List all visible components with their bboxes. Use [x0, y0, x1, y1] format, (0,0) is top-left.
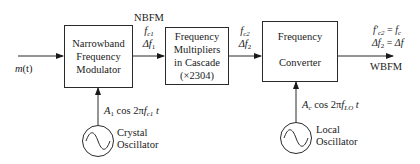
freq-sub: LO: [344, 104, 353, 112]
cos-term: cos 2π: [117, 105, 144, 116]
time-var: t: [356, 99, 359, 110]
eq-lhs-sub: c2: [378, 29, 385, 37]
block-line: in Cascade: [174, 56, 220, 69]
output-label: WBFM: [370, 61, 402, 73]
freq-sub: c1: [147, 30, 154, 38]
eq-rhs: Δf: [395, 37, 404, 48]
nbfm-title: NBFM: [131, 12, 167, 24]
block-line: (×2304): [180, 69, 214, 82]
time-var: t: [156, 105, 159, 116]
block-line: Multipliers: [174, 43, 221, 56]
osc-name-line: Oscillator: [117, 139, 158, 151]
block-line: Narrowband: [72, 37, 124, 50]
osc-name-line: Local: [316, 124, 357, 136]
crystal-sine-icon: [86, 133, 110, 150]
eq-lhs: Δf: [372, 37, 381, 48]
signal2-freq: fc2: [230, 25, 260, 37]
nbfm-dev: Δf1: [131, 38, 167, 50]
nbfm-modulator-label: Narrowband Frequency Modulator: [65, 26, 132, 87]
armstrong-fm-diagram: m(t) Narrowband Frequency Modulator Freq…: [0, 0, 420, 164]
output-eq-dev: Δf2 = Δf: [372, 37, 403, 49]
crystal-oscillator-label: Crystal Oscillator: [117, 127, 158, 151]
block-line: Frequency: [175, 30, 219, 43]
freq-sub: c1: [147, 110, 154, 118]
dev-sub: 1: [152, 43, 156, 51]
crystal-signal-label: A1 cos 2πfc1 t: [104, 105, 159, 117]
output-eq-freq: f′c2 = fc: [373, 24, 401, 36]
amp-sub: c: [308, 104, 311, 112]
amp-sub: 1: [110, 110, 114, 118]
osc-name-line: Oscillator: [316, 136, 357, 148]
nbfm-freq: fc1: [131, 25, 167, 37]
input-label: m(t): [15, 63, 33, 75]
local-sine-icon: [284, 130, 308, 147]
osc-name-line: Crystal: [117, 127, 158, 139]
block-line: Frequency: [76, 50, 120, 63]
converter-label-bottom: Converter: [263, 57, 337, 69]
multipliers-label: Frequency Multipliers in Cascade (×2304): [166, 28, 228, 84]
local-signal-label: Ac cos 2πfLO t: [302, 99, 359, 111]
input-arg: (t): [23, 63, 33, 74]
local-oscillator-label: Local Oscillator: [316, 124, 357, 148]
cos-term: cos 2π: [314, 99, 341, 110]
dev-var: Δf: [239, 38, 248, 49]
eq-sign: =: [387, 37, 393, 48]
eq-rhs-sub: c: [398, 29, 401, 37]
dev-sub: 2: [248, 43, 252, 51]
dev-var: Δf: [143, 38, 152, 49]
freq-sub: c2: [243, 30, 250, 38]
eq-lhs-sub: 2: [381, 42, 385, 50]
block-line: Modulator: [76, 63, 120, 76]
eq-sign: =: [387, 24, 393, 35]
signal2-dev: Δf2: [230, 38, 260, 50]
input-var: m: [15, 63, 23, 74]
converter-label-top: Frequency: [263, 31, 337, 43]
